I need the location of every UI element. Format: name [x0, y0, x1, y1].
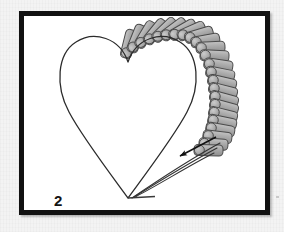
heart-beading-diagram [24, 16, 265, 210]
bugle-bead-row [120, 16, 240, 156]
illustration-frame: 2 [19, 11, 270, 215]
page-canvas: 2 [0, 0, 284, 232]
step-number: 2 [54, 193, 62, 208]
scan-edge-artifact [276, 196, 279, 198]
